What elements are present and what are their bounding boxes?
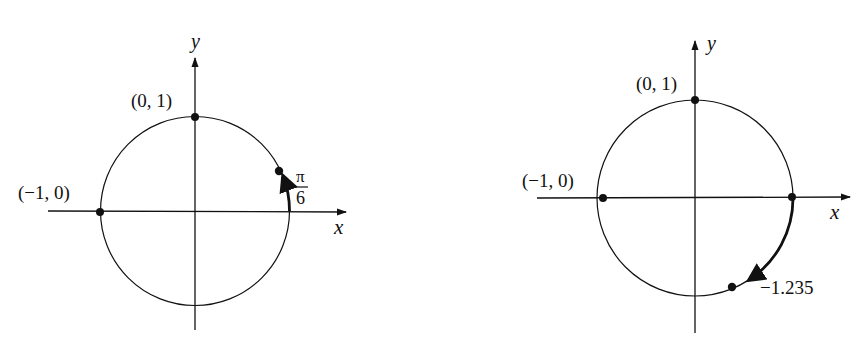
- left-y-label: y: [189, 30, 200, 53]
- right-arc-label: −1.235: [760, 277, 813, 298]
- left-arc-label-numerator: π: [296, 167, 305, 186]
- right-point-0-1: [691, 96, 699, 104]
- right-x-axis: [537, 197, 850, 198]
- right-label-0-1: (0, 1): [636, 73, 677, 95]
- right-arc-neg-1-235: [749, 198, 793, 280]
- left-arc-label-denominator: 6: [296, 188, 305, 208]
- left-diagram: y x (0, 1) (−1, 0) π 6: [18, 30, 346, 330]
- right-diagram: y x (0, 1) (−1, 0) −1.235: [522, 32, 850, 333]
- right-point-1-0: [788, 193, 796, 201]
- right-label-neg1-0: (−1, 0): [522, 170, 574, 192]
- right-point-neg-1-235: [728, 283, 736, 291]
- left-x-axis: [48, 211, 346, 212]
- left-arc-pi-over-6: [283, 176, 290, 211]
- right-y-label: y: [705, 32, 716, 55]
- unit-circle-figures: y x (0, 1) (−1, 0) π 6 y x (0, 1) (−1, 0…: [0, 0, 863, 354]
- left-label-neg1-0: (−1, 0): [18, 182, 70, 204]
- left-point-neg1-0: [96, 208, 104, 216]
- left-x-label: x: [333, 215, 344, 239]
- left-label-0-1: (0, 1): [131, 90, 172, 112]
- left-point-pi-over-6: [275, 167, 283, 175]
- left-point-0-1: [191, 113, 199, 121]
- right-point-neg1-0: [599, 194, 607, 202]
- right-x-label: x: [829, 200, 840, 224]
